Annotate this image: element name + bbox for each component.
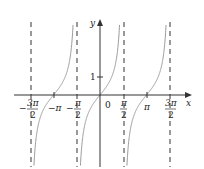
denominator: 2 xyxy=(75,110,81,120)
numerator: 3π xyxy=(27,98,40,108)
origin-label: 0 xyxy=(105,100,111,110)
x-tick-label-neg-3pi-2: − 3π 2 xyxy=(19,98,40,120)
denominator: 2 xyxy=(30,110,36,120)
x-tick-label-pi-2: π 2 xyxy=(120,98,128,120)
x-axis-label: x xyxy=(186,98,191,108)
y-tick-label-1: 1 xyxy=(90,72,96,82)
numerator: 3π xyxy=(165,98,178,108)
axes xyxy=(14,24,190,167)
minus-sign: − xyxy=(19,103,27,113)
denominator: 2 xyxy=(168,110,174,120)
minus-sign: − xyxy=(66,103,74,113)
chart-canvas: x y 0 1 − 3π 2 −π − π 2 π 2 π 3π xyxy=(0,0,204,169)
tan-graph: x y 0 1 − 3π 2 −π − π 2 π 2 π 3π xyxy=(0,0,204,169)
y-axis-label: y xyxy=(89,18,96,28)
x-tick-label-neg-pi-2: − π 2 xyxy=(66,98,82,120)
x-tick-label-3pi-2: 3π 2 xyxy=(165,98,178,120)
numerator: π xyxy=(74,98,82,108)
denominator: 2 xyxy=(121,110,127,120)
x-tick-label-pi: π xyxy=(143,102,151,112)
y-axis-arrow-icon xyxy=(97,19,103,26)
x-tick-label-neg-pi: −π xyxy=(48,103,63,113)
numerator: π xyxy=(120,98,128,108)
